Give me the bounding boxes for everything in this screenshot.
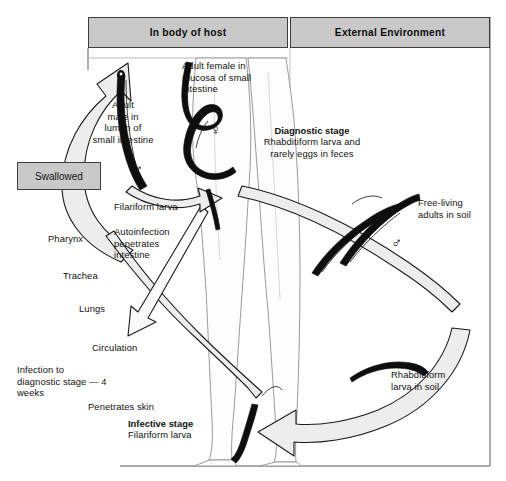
stage-diagnostic-detail: Rhabditiform larva and rarely eggs in fe…	[238, 136, 386, 159]
stage-infective: Infective stage Filariform larva	[128, 418, 248, 441]
stage-infective-title: Infective stage	[128, 418, 248, 429]
label-adult-male: Adult male in lumen of small intestine	[78, 99, 168, 145]
label-infection-to-diagnostic-stage: Infection to diagnostic stage — 4 weeks	[17, 364, 127, 399]
header-external-environment: External Environment	[290, 17, 490, 48]
label-free-living-adults: Free-living adults in soil	[418, 197, 498, 220]
stage-infective-detail: Filariform larva	[128, 429, 248, 441]
label-lungs: Lungs	[79, 303, 105, 315]
label-trachea: Trachea	[63, 270, 98, 282]
header-in-body-of-host: In body of host	[88, 17, 288, 48]
label-circulation: Circulation	[92, 342, 137, 354]
stage-diagnostic: Diagnostic stage Rhabditiform larva and …	[238, 125, 386, 160]
stage-diagnostic-title: Diagnostic stage	[238, 125, 386, 136]
callout-swallowed: Swallowed	[17, 162, 101, 190]
life-cycle-diagram: .arw{fill:#ededed;stroke:#1a1a1a;stroke-…	[0, 0, 506, 481]
male-symbol-gut: ♂	[132, 164, 143, 176]
label-pharynx: Pharynx	[48, 233, 83, 245]
male-symbol-soil: ♂	[391, 237, 402, 249]
label-autoinfection: Autoinfection penetrates intestine	[114, 226, 210, 261]
female-symbol-gut: ♀	[210, 124, 221, 136]
label-adult-female: Adult female in mucosa of small intestin…	[182, 60, 294, 95]
label-filariform-larva: Filariform larva	[114, 201, 206, 213]
label-penetrates-skin: Penetrates skin	[88, 401, 154, 413]
female-symbol-soil: ♀	[318, 258, 329, 270]
label-rhabditiform-larva-in-soil: Rhabditiform larva in soil	[391, 369, 479, 392]
host-body-silhouette	[193, 58, 300, 466]
